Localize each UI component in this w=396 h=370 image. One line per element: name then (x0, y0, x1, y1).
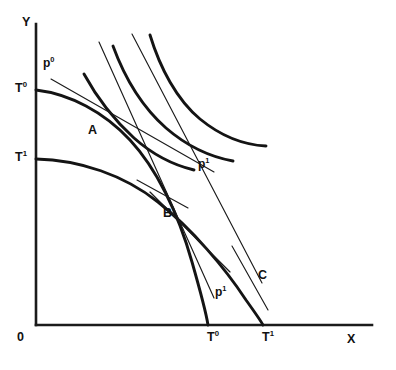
y-intercept-T0-sup: 0 (23, 80, 27, 89)
ppf-curve-T1 (36, 159, 263, 325)
x-intercept-T1-base: T (262, 330, 270, 344)
point-label-B: B (163, 207, 172, 220)
y-axis-label: Y (22, 16, 30, 29)
economics-figure (0, 0, 396, 370)
y-intercept-T1-sup: 1 (23, 149, 27, 158)
x-intercept-T1-sup: 1 (270, 329, 274, 338)
y-intercept-T0-base: T (15, 81, 23, 95)
indifference-curve-mid (113, 46, 233, 161)
y-intercept-T0-label: T0 (15, 82, 27, 95)
x-intercept-T0-sup: 0 (215, 329, 219, 338)
price-label-p0-sup: 0 (50, 55, 54, 64)
point-label-A: A (88, 124, 97, 137)
price-label-p1-middle-sup: 1 (205, 156, 209, 165)
x-intercept-T0-label: T0 (207, 331, 219, 344)
price-label-p1-lower-sup: 1 (222, 284, 226, 293)
price-label-p1-lower: p1 (215, 286, 226, 298)
x-axis-label: X (347, 333, 355, 346)
price-label-p0: p0 (43, 57, 54, 69)
axis-group (36, 24, 372, 325)
diagram-canvas: Y X 0 T0 T1 T0 T1 A B C p0 p1 p1 (0, 0, 396, 370)
y-intercept-T1-base: T (15, 150, 23, 164)
origin-label: 0 (17, 331, 24, 344)
price-label-p1-middle: p1 (198, 158, 209, 170)
x-intercept-T1-label: T1 (262, 331, 274, 344)
y-intercept-T1-label: T1 (15, 151, 27, 164)
point-label-C: C (258, 269, 267, 282)
price-line-p0 (51, 79, 214, 172)
x-intercept-T0-base: T (207, 330, 215, 344)
